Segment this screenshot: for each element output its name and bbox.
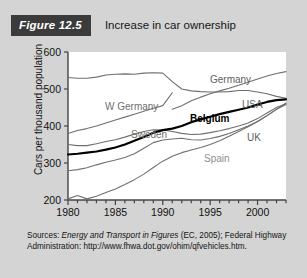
chart-area: Cars per thousand population 20030040050…	[14, 46, 293, 226]
source-prefix: Sources:	[27, 231, 62, 240]
y-tick-labels: 200300400500600	[43, 46, 61, 206]
series-label-sweden: Sweden	[131, 129, 167, 140]
x-tick-marks	[68, 200, 286, 205]
plot-background	[68, 52, 286, 200]
series-label-uk: UK	[247, 132, 261, 143]
x-tick-label: 1980	[56, 206, 80, 218]
series-label-germany: Germany	[210, 74, 251, 85]
source-note: Sources: Energy and Transport in Figures…	[27, 231, 293, 252]
x-tick-label: 2000	[246, 206, 270, 218]
y-axis-label: Cars per thousand population	[33, 40, 44, 180]
x-tick-labels: 19801985199019952000	[56, 206, 269, 218]
series-label-spain: Spain	[204, 153, 230, 164]
figure-panel: Figure 12.5 Increase in car ownership Ca…	[0, 0, 307, 278]
figure-number-badge: Figure 12.5	[11, 15, 91, 36]
x-tick-label: 1985	[104, 206, 128, 218]
x-tick-label: 1995	[198, 206, 222, 218]
y-tick-label: 500	[43, 83, 61, 95]
series-label-usa: USA	[242, 99, 263, 110]
figure-title: Increase in car ownership	[91, 15, 236, 36]
y-tick-label: 400	[43, 120, 61, 132]
y-tick-label: 600	[43, 46, 61, 58]
y-tick-label: 300	[43, 157, 61, 169]
source-url: http://www.fhwa.dot.gov/ohim/qfvehicles.…	[83, 242, 246, 251]
line-chart: 200300400500600 19801985199019952000 W G…	[14, 46, 293, 226]
series-label-belgium: Belgium	[190, 113, 230, 124]
series-label-w-germany: W Germany	[105, 101, 158, 112]
figure-header: Figure 12.5 Increase in car ownership	[11, 15, 236, 36]
y-tick-label: 200	[43, 194, 61, 206]
x-tick-label: 1990	[151, 206, 175, 218]
source-title-italic: Energy and Transport in Figures	[62, 231, 179, 240]
